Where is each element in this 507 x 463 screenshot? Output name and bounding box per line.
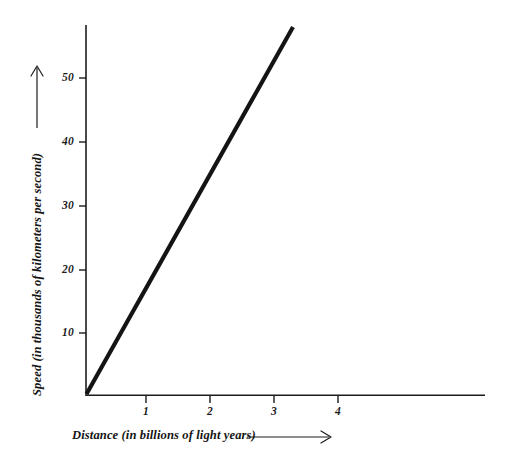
- hubble-law-chart: 50 40 30 20 10 1 2 3 4 Distance (in bill…: [0, 0, 507, 463]
- x-axis-title: Distance (in billions of light years): [72, 428, 256, 443]
- y-tick-label-40: 40: [44, 135, 74, 147]
- x-tick-label-1: 1: [131, 405, 161, 417]
- x-tick-label-2: 2: [195, 405, 225, 417]
- y-tick-label-50: 50: [44, 71, 74, 83]
- y-tick-label-30: 30: [44, 199, 74, 211]
- y-axis-title: Speed (in thousands of kilometers per se…: [30, 153, 45, 396]
- y-tick-label-20: 20: [44, 263, 74, 275]
- x-tick-label-4: 4: [323, 405, 353, 417]
- data-series-hubble-relation: [87, 27, 294, 394]
- x-tick-label-3: 3: [259, 405, 289, 417]
- chart-canvas: [0, 0, 507, 463]
- y-tick-label-10: 10: [44, 326, 74, 338]
